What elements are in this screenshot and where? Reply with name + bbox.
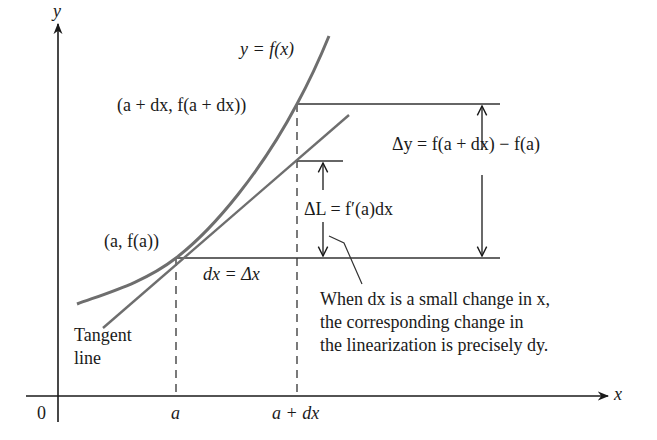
delta-y-label: Δy = f(a + dx) − f(a)	[392, 135, 540, 153]
x-axis-label: x	[614, 385, 622, 403]
point-a-plus-dx-label: (a + dx, f(a + dx))	[117, 96, 246, 114]
tangent-line	[103, 115, 349, 328]
y-axis-label: y	[53, 2, 61, 20]
point-a-label: (a, f(a))	[104, 232, 159, 250]
note-leader-line	[329, 236, 362, 284]
delta-l-label: ΔL = f′(a)dx	[304, 200, 393, 218]
note-line-3: the linearization is precisely dy.	[320, 334, 548, 357]
origin-label: 0	[37, 404, 46, 422]
dx-label: dx = Δx	[203, 265, 260, 283]
note-line-2: the corresponding change in	[320, 311, 523, 334]
tangent-label-line1: Tangent	[74, 326, 132, 344]
curve-label: y = f(x)	[240, 40, 294, 58]
x-tick-a-plus-dx: a + dx	[272, 404, 319, 422]
note-line-1: When dx is a small change in x,	[320, 288, 550, 311]
linearization-diagram: y x 0 a a + dx y = f(x) (a, f(a)) (a + d…	[0, 0, 657, 440]
tangent-label-line2: line	[74, 349, 101, 367]
diagram-canvas	[0, 0, 657, 440]
x-tick-a: a	[171, 404, 180, 422]
